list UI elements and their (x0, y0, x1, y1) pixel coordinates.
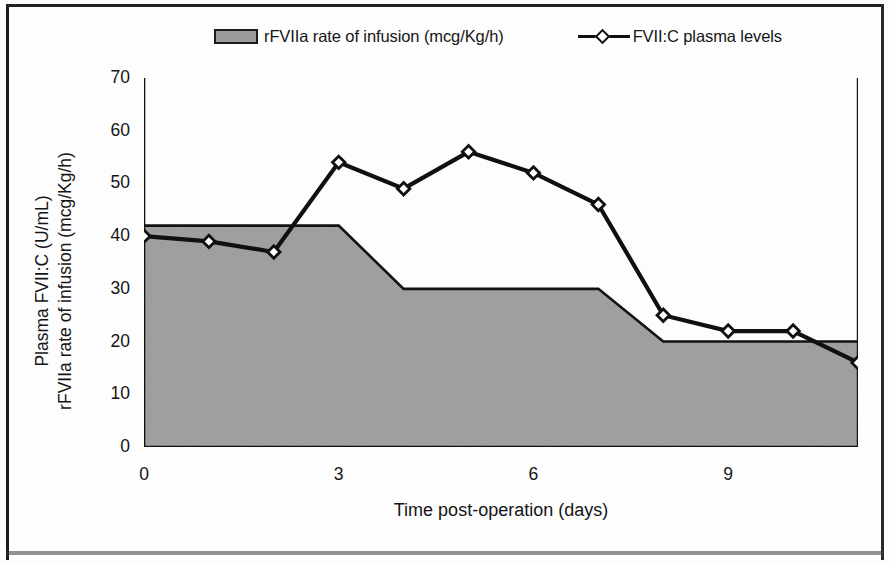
figure-border-bottom (6, 551, 884, 555)
chart-legend: rFVIIa rate of infusion (mcg/Kg/h) FVII:… (214, 20, 854, 52)
figure-border-right (881, 4, 884, 560)
plot-area (144, 78, 858, 447)
x-axis-title: Time post-operation (days) (144, 500, 858, 521)
x-tick-label: 9 (723, 464, 733, 485)
x-tick-label: 3 (334, 464, 344, 485)
y-tick-label: 0 (120, 438, 130, 456)
figure-container: rFVIIa rate of infusion (mcg/Kg/h) FVII:… (0, 0, 890, 564)
y-tick-label: 10 (111, 386, 130, 404)
y-tick-label: 50 (111, 175, 130, 193)
figure-border-top (6, 4, 884, 7)
y-tick-label: 70 (111, 69, 130, 87)
area-swatch-icon (214, 29, 258, 44)
y-tick-label: 60 (111, 122, 130, 140)
y-tick-label: 40 (111, 227, 130, 245)
line-marker-icon (578, 28, 630, 44)
y-tick-label: 20 (111, 333, 130, 351)
x-axis-tick-labels: 0369 (144, 452, 858, 486)
legend-entry-plasma: FVII:C plasma levels (578, 27, 782, 46)
legend-label-infusion: rFVIIa rate of infusion (mcg/Kg/h) (264, 27, 504, 46)
series-area-infusion (144, 226, 858, 447)
legend-label-plasma: FVII:C plasma levels (633, 27, 782, 46)
y-tick-label: 30 (111, 280, 130, 298)
x-tick-label: 6 (529, 464, 539, 485)
legend-entry-infusion: rFVIIa rate of infusion (mcg/Kg/h) (214, 27, 504, 46)
x-tick-label: 0 (139, 464, 149, 485)
y-axis-tick-labels: 010203040506070 (0, 78, 138, 447)
